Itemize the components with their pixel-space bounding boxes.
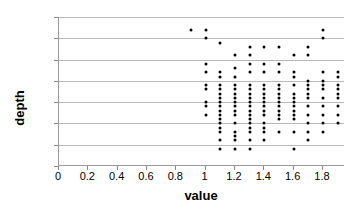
- data-point: [248, 126, 251, 129]
- data-point: [219, 96, 222, 99]
- data-point: [307, 139, 310, 142]
- data-point: [292, 147, 295, 150]
- data-point: [322, 105, 325, 108]
- data-point: [234, 105, 237, 108]
- data-point: [219, 109, 222, 112]
- data-point: [234, 130, 237, 133]
- data-point: [307, 122, 310, 125]
- data-point: [322, 79, 325, 82]
- data-point: [307, 92, 310, 95]
- data-point: [248, 147, 251, 150]
- data-point: [204, 37, 207, 40]
- data-point: [292, 105, 295, 108]
- y-axis-title: depth: [12, 90, 27, 125]
- data-point: [278, 113, 281, 116]
- data-point: [219, 113, 222, 116]
- data-point: [263, 96, 266, 99]
- data-point: [278, 130, 281, 133]
- data-point: [322, 37, 325, 40]
- data-point: [307, 79, 310, 82]
- data-point: [248, 54, 251, 57]
- data-point: [234, 88, 237, 91]
- data-point: [204, 71, 207, 74]
- data-point: [292, 96, 295, 99]
- data-point: [248, 109, 251, 112]
- data-point: [292, 101, 295, 104]
- data-point: [248, 88, 251, 91]
- data-point: [263, 109, 266, 112]
- data-point: [234, 96, 237, 99]
- data-point: [204, 105, 207, 108]
- gridline: [59, 38, 344, 39]
- data-point: [204, 62, 207, 65]
- data-point: [307, 105, 310, 108]
- data-point: [336, 105, 339, 108]
- data-point: [336, 96, 339, 99]
- data-point: [234, 101, 237, 104]
- data-point: [336, 75, 339, 78]
- data-point: [263, 92, 266, 95]
- data-point: [278, 92, 281, 95]
- data-point: [263, 45, 266, 48]
- data-point: [204, 113, 207, 116]
- data-point: [248, 101, 251, 104]
- data-point: [234, 92, 237, 95]
- data-point: [278, 118, 281, 121]
- data-point: [234, 139, 237, 142]
- gridline: [59, 102, 344, 103]
- data-point: [248, 105, 251, 108]
- data-point: [336, 92, 339, 95]
- data-point: [322, 28, 325, 31]
- data-point: [248, 96, 251, 99]
- data-point: [219, 130, 222, 133]
- data-point: [234, 122, 237, 125]
- x-axis-title: value: [58, 188, 344, 203]
- data-point: [322, 113, 325, 116]
- data-point: [307, 88, 310, 91]
- data-point: [248, 113, 251, 116]
- data-point: [307, 130, 310, 133]
- data-point: [248, 130, 251, 133]
- x-tick-label: 1.8: [302, 170, 342, 182]
- data-point: [292, 75, 295, 78]
- gridline: [59, 60, 344, 61]
- gridline: [59, 145, 344, 146]
- data-point: [307, 96, 310, 99]
- data-point: [234, 75, 237, 78]
- data-point: [278, 71, 281, 74]
- gridline: [59, 17, 344, 18]
- data-point: [278, 109, 281, 112]
- data-point: [322, 130, 325, 133]
- data-point: [219, 101, 222, 104]
- data-point: [322, 84, 325, 87]
- data-point: [204, 84, 207, 87]
- data-point: [263, 101, 266, 104]
- data-point: [234, 67, 237, 70]
- data-point: [234, 135, 237, 138]
- data-point: [263, 126, 266, 129]
- data-point: [219, 75, 222, 78]
- data-point: [263, 84, 266, 87]
- data-point: [234, 113, 237, 116]
- data-point: [278, 96, 281, 99]
- data-point: [278, 88, 281, 91]
- data-point: [219, 105, 222, 108]
- data-point: [322, 71, 325, 74]
- data-point: [292, 84, 295, 87]
- data-point: [263, 62, 266, 65]
- data-point: [248, 139, 251, 142]
- data-point: [263, 130, 266, 133]
- data-point: [307, 84, 310, 87]
- data-point: [292, 71, 295, 74]
- data-point: [248, 84, 251, 87]
- data-point: [219, 92, 222, 95]
- data-point: [248, 122, 251, 125]
- data-point: [278, 101, 281, 104]
- data-point: [234, 54, 237, 57]
- scatter-chart: 05101520253035 00.20.40.60.811.21.41.61.…: [0, 0, 351, 215]
- data-point: [219, 84, 222, 87]
- data-point: [248, 45, 251, 48]
- data-point: [322, 96, 325, 99]
- data-point: [219, 147, 222, 150]
- data-point: [292, 113, 295, 116]
